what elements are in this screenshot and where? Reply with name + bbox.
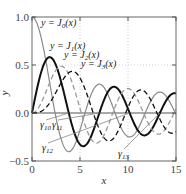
bessel-chart: 051015−0.50.00.51.0 γ10γ11γ12γ13 y = J0(… bbox=[0, 0, 186, 194]
y-tick-label: −0.5 bbox=[9, 155, 29, 167]
curve-labels: y = J0(x)y = J1(x)y = J2(x)y = J3(x) bbox=[40, 17, 117, 71]
y-tick-label: 1.0 bbox=[15, 11, 29, 23]
y-tick-label: 0.5 bbox=[15, 59, 29, 71]
curve-label-J3: y = J3(x) bbox=[80, 58, 117, 71]
x-tick-label: 0 bbox=[29, 163, 35, 175]
y-tick-label: 0.0 bbox=[15, 107, 29, 119]
plot-frame bbox=[32, 17, 176, 161]
x-axis-title: x bbox=[101, 174, 107, 186]
x-tick-label: 15 bbox=[171, 163, 183, 175]
gamma-label-12: γ12 bbox=[42, 142, 53, 155]
curve-J0 bbox=[32, 17, 176, 152]
grid bbox=[32, 17, 176, 161]
curves bbox=[32, 17, 176, 152]
gamma-label-10: γ10 bbox=[40, 119, 51, 132]
x-tick-label: 5 bbox=[77, 163, 83, 175]
gamma-leader bbox=[124, 113, 160, 149]
curve-label-J0: y = J0(x) bbox=[40, 17, 77, 30]
plot-border bbox=[32, 17, 176, 161]
x-tick-label: 10 bbox=[123, 163, 135, 175]
y-axis-title: y bbox=[0, 90, 10, 96]
